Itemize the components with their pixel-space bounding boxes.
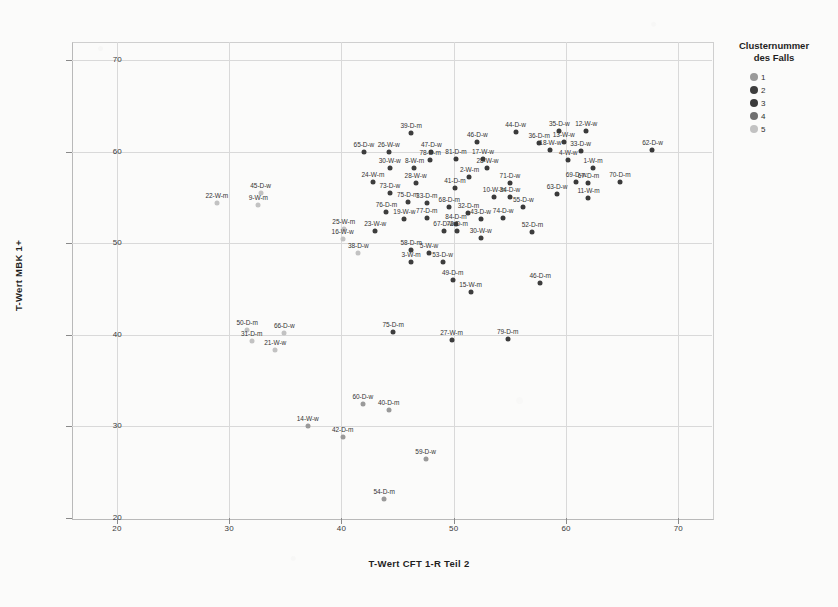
data-point[interactable]	[382, 496, 387, 501]
data-point[interactable]	[249, 339, 254, 344]
data-point[interactable]	[449, 338, 454, 343]
data-point-label: 19-W-w	[393, 208, 415, 215]
legend-entry[interactable]: 3	[750, 97, 834, 110]
data-point-label: 12-W-w	[575, 120, 597, 127]
data-point[interactable]	[412, 166, 417, 171]
data-point[interactable]	[505, 336, 510, 341]
data-point[interactable]	[530, 230, 535, 235]
data-point[interactable]	[513, 129, 518, 134]
data-point[interactable]	[468, 289, 473, 294]
data-point[interactable]	[492, 194, 497, 199]
data-point[interactable]	[409, 259, 414, 264]
data-point[interactable]	[455, 229, 460, 234]
data-point[interactable]	[361, 149, 366, 154]
data-point[interactable]	[391, 330, 396, 335]
data-point[interactable]	[413, 180, 418, 185]
plot-area	[72, 42, 714, 520]
data-point-label: 59-D-w	[415, 448, 436, 455]
data-point-label: 2-W-m	[460, 166, 479, 173]
data-point[interactable]	[555, 191, 560, 196]
data-point-label: 47-D-w	[421, 141, 442, 148]
data-point[interactable]	[423, 457, 428, 462]
legend-swatch-icon	[750, 86, 758, 94]
data-point[interactable]	[478, 235, 483, 240]
data-point[interactable]	[441, 229, 446, 234]
data-point[interactable]	[485, 166, 490, 171]
gridline-horizontal	[72, 60, 712, 61]
data-point[interactable]	[475, 139, 480, 144]
data-point-label: 53-D-w	[432, 251, 453, 258]
data-point[interactable]	[452, 185, 457, 190]
legend-entry[interactable]: 1	[750, 71, 834, 84]
data-point[interactable]	[447, 204, 452, 209]
data-point[interactable]	[340, 435, 345, 440]
data-point[interactable]	[440, 259, 445, 264]
data-point[interactable]	[586, 180, 591, 185]
data-point-label: 28-W-w	[476, 157, 498, 164]
data-point-label: 66-D-w	[274, 322, 295, 329]
legend-entry[interactable]: 4	[750, 110, 834, 123]
legend-entry[interactable]: 5	[750, 123, 834, 136]
data-point[interactable]	[478, 216, 483, 221]
data-point[interactable]	[387, 166, 392, 171]
data-point[interactable]	[384, 210, 389, 215]
data-point[interactable]	[467, 174, 472, 179]
data-point-label: 62-D-w	[642, 139, 663, 146]
data-point[interactable]	[256, 202, 261, 207]
data-point[interactable]	[305, 424, 310, 429]
data-point[interactable]	[427, 251, 432, 256]
data-point[interactable]	[584, 128, 589, 133]
legend-swatch-icon	[750, 73, 758, 81]
data-point[interactable]	[273, 347, 278, 352]
data-point-label: 26-W-w	[378, 141, 400, 148]
data-point-label: 77-D-m	[416, 207, 437, 214]
data-point-label: 25-W-m	[332, 218, 355, 225]
data-point[interactable]	[507, 194, 512, 199]
data-point-label: 31-D-m	[241, 330, 262, 337]
data-point[interactable]	[370, 180, 375, 185]
data-point[interactable]	[424, 215, 429, 220]
data-point[interactable]	[340, 236, 345, 241]
data-point-label: 8-W-m	[405, 157, 424, 164]
data-point[interactable]	[409, 130, 414, 135]
data-point-label: 67-D-m	[578, 172, 599, 179]
data-point[interactable]	[450, 278, 455, 283]
data-point[interactable]	[428, 158, 433, 163]
gridline-vertical	[566, 42, 567, 518]
data-point-label: 28-W-w	[405, 172, 427, 179]
x-axis-title: T-Wert CFT 1-R Teil 2	[0, 558, 838, 569]
data-point[interactable]	[402, 216, 407, 221]
data-point[interactable]	[650, 148, 655, 153]
data-point[interactable]	[360, 402, 365, 407]
data-point[interactable]	[586, 195, 591, 200]
data-point[interactable]	[561, 139, 566, 144]
data-point-label: 78-D-m	[419, 149, 440, 156]
data-point[interactable]	[548, 148, 553, 153]
data-point[interactable]	[386, 407, 391, 412]
data-point[interactable]	[373, 229, 378, 234]
data-point[interactable]	[454, 157, 459, 162]
data-point[interactable]	[501, 215, 506, 220]
data-point[interactable]	[538, 280, 543, 285]
data-point[interactable]	[424, 201, 429, 206]
gridline-horizontal	[72, 426, 712, 427]
gridline-vertical	[117, 42, 118, 518]
legend-entry[interactable]: 2	[750, 84, 834, 97]
data-point[interactable]	[214, 201, 219, 206]
data-point[interactable]	[574, 180, 579, 185]
legend-title-line2: des Falls	[714, 52, 834, 64]
data-point-label: 55-D-w	[513, 196, 534, 203]
data-point[interactable]	[405, 200, 410, 205]
data-point-label: 42-D-m	[332, 426, 353, 433]
data-point[interactable]	[617, 180, 622, 185]
data-point[interactable]	[566, 158, 571, 163]
data-point[interactable]	[507, 180, 512, 185]
data-point[interactable]	[282, 331, 287, 336]
data-point[interactable]	[387, 191, 392, 196]
data-point[interactable]	[590, 166, 595, 171]
data-point[interactable]	[356, 250, 361, 255]
data-point[interactable]	[578, 148, 583, 153]
data-point[interactable]	[386, 149, 391, 154]
data-point-label: 39-D-m	[400, 122, 421, 129]
data-point[interactable]	[521, 204, 526, 209]
